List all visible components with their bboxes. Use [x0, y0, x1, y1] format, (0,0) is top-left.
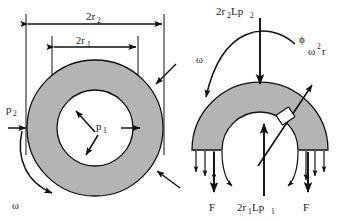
left-reaction-group: F: [196, 151, 232, 213]
left-reaction-label: F: [209, 201, 215, 213]
technical-diagram: 2r 2 2r 1 p 2: [0, 0, 338, 220]
internal-pressure-label-text: p: [96, 120, 102, 132]
outer-diameter-label-sub: 2: [97, 16, 101, 25]
centripetal-acceleration-label-sup: 2: [317, 42, 321, 51]
bottom-force-label-sub2: 1: [271, 207, 275, 216]
figure-canvas: 2r 2 2r 1 p 2: [0, 0, 338, 220]
phi-angle-label: ϕ: [299, 33, 305, 45]
top-force-label: 2r 2 Lp 2: [216, 5, 254, 20]
ring-annulus-shape: [27, 60, 163, 196]
centripetal-acceleration-label: ω 2 r: [308, 42, 326, 57]
external-pressure-label: p 2: [6, 103, 17, 118]
right-rotation-label: ω: [196, 54, 203, 65]
right-reaction-group: F: [288, 151, 324, 213]
internal-pressure-label-sub: 1: [103, 126, 107, 135]
bottom-force-label-text: 2r: [237, 201, 247, 213]
outer-diameter-label: 2r 2: [86, 10, 101, 25]
right-diagram-group: 2r 2 Lp 2 ϕ ω 2 r ω 2r 1 Lp: [192, 5, 328, 216]
outer-diameter-label-text: 2r: [86, 10, 96, 22]
inner-diameter-label-text: 2r: [76, 35, 85, 46]
right-reaction-label: F: [303, 201, 309, 213]
top-force-label-text: 2r: [216, 5, 226, 17]
top-force-label-text2: Lp: [231, 5, 244, 17]
centripetal-acceleration-label-text2: r: [322, 45, 326, 57]
centripetal-acceleration-label-text: ω: [308, 45, 315, 57]
internal-pressure-label: p 1: [96, 120, 107, 135]
external-pressure-label-text: p: [6, 103, 12, 115]
inner-diameter-label-sub: 1: [87, 40, 91, 49]
bottom-force-label: 2r 1 Lp 1: [237, 201, 275, 216]
left-rotation-label: ω: [12, 200, 19, 211]
top-force-label-sub2: 2: [250, 11, 254, 20]
external-pressure-label-sub: 2: [13, 109, 17, 118]
bottom-force-label-text2: Lp: [252, 201, 265, 213]
left-diagram-group: 2r 2 2r 1 p 2: [6, 10, 180, 211]
